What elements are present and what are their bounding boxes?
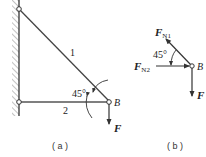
figure-a: 1 2 45° B F ( a ) — [12, 0, 122, 151]
figure-b: FN1 FN2 45° B F ( b ) — [133, 26, 205, 151]
joint-b-label-b: B — [197, 61, 203, 72]
cut-arc-top — [93, 80, 108, 92]
cut-arc-bottom — [86, 96, 92, 118]
force-label: F — [113, 122, 122, 134]
fn2-label: FN2 — [133, 60, 150, 74]
member-2-label: 2 — [63, 105, 68, 116]
caption-a: ( a ) — [52, 141, 68, 151]
wall-hatch — [12, 0, 19, 116]
member-1-label: 1 — [70, 47, 75, 58]
angle-arc-b — [171, 50, 176, 65]
force-label-b: F — [196, 89, 205, 101]
fn1-arrow — [166, 39, 191, 65]
fn1-label: FN1 — [154, 26, 171, 40]
caption-b: ( b ) — [167, 141, 183, 151]
angle-label: 45° — [72, 88, 86, 99]
joint-b — [107, 100, 112, 105]
truss-diagram: 1 2 45° B F ( a ) FN1 FN2 45° B F ( b ) — [0, 0, 206, 157]
pin-bottom — [17, 100, 22, 105]
joint-b-node — [190, 64, 194, 68]
joint-b-label: B — [114, 97, 120, 108]
pin-top — [17, 7, 22, 12]
angle-label-b: 45° — [153, 49, 167, 60]
